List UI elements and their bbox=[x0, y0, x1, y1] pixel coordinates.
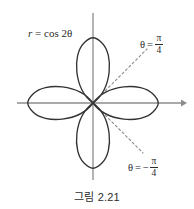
fraction-numerator: π bbox=[150, 157, 157, 168]
equation-label: r = cos 2θ bbox=[28, 28, 72, 39]
x-axis-arrowhead bbox=[181, 100, 187, 107]
equation-expression: cos 2θ bbox=[44, 27, 72, 39]
angle-label-theta-negative-pi-over-4: θ = − π 4 bbox=[128, 157, 158, 179]
fraction-pi-over-four: π 4 bbox=[155, 34, 163, 56]
theta-symbol: θ bbox=[128, 163, 133, 174]
equation-equals: = bbox=[35, 27, 41, 39]
fraction-denominator: 4 bbox=[156, 45, 163, 56]
theta-symbol: θ bbox=[140, 40, 145, 51]
figure-caption: 그림 2.21 bbox=[0, 188, 194, 204]
figure-container: r = cos 2θ θ = π 4 θ = − π 4 그림 2.21 bbox=[0, 0, 194, 209]
fraction-denominator: 4 bbox=[151, 168, 158, 179]
equals-sign: = bbox=[147, 40, 153, 51]
angle-label-theta-positive-pi-over-4: θ = π 4 bbox=[140, 34, 163, 56]
fraction-pi-over-four: π 4 bbox=[150, 157, 158, 179]
fraction-numerator: π bbox=[156, 34, 163, 45]
equals-sign: = bbox=[135, 163, 141, 174]
minus-sign: − bbox=[143, 163, 149, 174]
